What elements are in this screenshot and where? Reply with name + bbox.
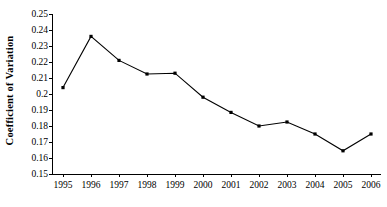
data-point-markers bbox=[61, 35, 372, 153]
data-point-marker bbox=[229, 111, 232, 114]
data-point-marker bbox=[313, 132, 316, 135]
data-line-series-1 bbox=[63, 36, 371, 150]
data-point-marker bbox=[257, 124, 260, 127]
data-point-marker bbox=[89, 35, 92, 38]
data-point-marker bbox=[173, 72, 176, 75]
axis-group bbox=[52, 14, 381, 174]
data-point-marker bbox=[117, 59, 120, 62]
data-point-marker bbox=[145, 72, 148, 75]
data-point-marker bbox=[285, 120, 288, 123]
data-point-marker bbox=[341, 149, 344, 152]
data-point-marker bbox=[201, 96, 204, 99]
data-point-marker bbox=[369, 132, 372, 135]
plot-area bbox=[0, 0, 387, 207]
line-chart: Coefficient of Variation 0.250.240.230.2… bbox=[0, 0, 387, 207]
tick-marks bbox=[49, 14, 371, 177]
data-point-marker bbox=[61, 86, 64, 89]
